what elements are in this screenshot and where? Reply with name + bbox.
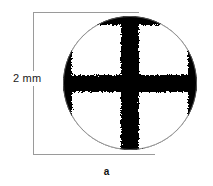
- quadrant-window-top-left: [72, 25, 121, 75]
- specimen-circle-graphic: [0, 0, 213, 186]
- quadrant-window-top-right: [139, 25, 188, 75]
- crosshair-pattern-group: [63, 14, 198, 154]
- crosshair-horizontal-bar: [63, 77, 198, 90]
- figure-panel-a: 2 mm: [0, 0, 213, 186]
- crosshair-bars: [63, 14, 198, 154]
- panel-caption: a: [0, 166, 213, 177]
